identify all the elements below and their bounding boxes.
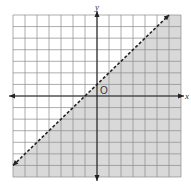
origin-label: O <box>100 85 108 96</box>
coordinate-plane: x y O <box>0 0 191 189</box>
x-axis-label: x <box>184 91 189 101</box>
y-axis-label: y <box>94 2 99 12</box>
